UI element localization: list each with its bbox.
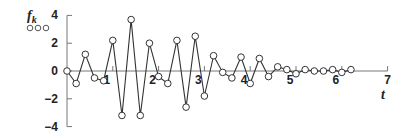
data-point [201, 93, 208, 100]
data-point [100, 77, 107, 84]
legend-marker-icon [27, 25, 49, 31]
y-axis-label: fk [27, 8, 37, 25]
data-point [146, 40, 153, 47]
data-point [110, 37, 117, 44]
data-point [164, 80, 171, 87]
data-point [219, 69, 226, 76]
data-point [128, 16, 135, 23]
data-point [82, 51, 89, 58]
y-tick-label: −4 [44, 120, 58, 134]
data-point [229, 75, 236, 82]
series-line [67, 20, 351, 116]
data-point [155, 73, 162, 80]
data-point [91, 75, 98, 82]
data-point [119, 112, 126, 119]
data-point [311, 68, 318, 75]
data-point [238, 54, 245, 61]
data-point [256, 55, 263, 62]
y-tick-label: 4 [51, 8, 58, 22]
data-point [174, 37, 181, 44]
data-point [192, 33, 199, 40]
x-tick-label: 6 [332, 73, 339, 87]
data-point [73, 80, 80, 87]
data-point [320, 68, 327, 75]
data-point [329, 66, 336, 73]
x-tick-label: 7 [384, 73, 391, 87]
data-point [284, 66, 291, 73]
y-tick-label: 0 [51, 64, 58, 78]
y-tick-label: −2 [44, 92, 58, 106]
data-point [274, 64, 281, 71]
x-axis-label: t [381, 87, 386, 102]
y-tick-label: 2 [51, 36, 58, 50]
data-point [183, 104, 190, 111]
data-point [302, 66, 309, 73]
data-point [137, 112, 144, 119]
data-point [293, 70, 300, 77]
data-point [348, 66, 355, 73]
data-point [339, 69, 346, 76]
chart: 420−2−4 1234567 fk t [0, 0, 408, 138]
data-point [64, 68, 71, 75]
series-markers [64, 16, 355, 119]
data-point [247, 80, 254, 87]
data-point [210, 52, 217, 59]
data-point [265, 73, 272, 80]
